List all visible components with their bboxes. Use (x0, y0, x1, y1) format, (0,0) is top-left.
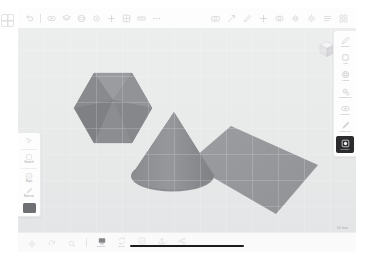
app-screen: 10 mm Smooth Maps Material (0, 0, 374, 258)
rail-item-transform[interactable]: Transform (334, 84, 356, 101)
mirror-icon[interactable] (291, 14, 300, 23)
rail-item-adjust[interactable]: Adjust (334, 67, 356, 84)
bottom-item-rotate[interactable] (44, 240, 59, 249)
dot-icon[interactable] (92, 14, 101, 23)
rail-label-6: Render (341, 149, 350, 152)
display-icon (98, 237, 106, 245)
right-tool-rail: Sketch Add Adjust Transform Visibility M (333, 30, 356, 157)
modeling-canvas[interactable]: 10 mm (18, 28, 356, 233)
scale-readout: 10 mm (337, 226, 348, 230)
bottom-item-sync[interactable]: Sync (114, 237, 129, 248)
icosahedron-object (74, 73, 152, 143)
square-outline-icon (25, 153, 33, 161)
left-palette-item-maps[interactable]: Maps (18, 170, 40, 186)
eye-icon (341, 104, 350, 113)
left-palette-label-1: Smooth (24, 162, 34, 165)
toolbar-divider (40, 14, 41, 23)
pencil-icon (341, 36, 350, 45)
layers-icon[interactable] (62, 14, 71, 23)
bottom-label-4: Sync (119, 246, 125, 249)
list-icon[interactable] (323, 14, 332, 23)
pencil-icon[interactable] (243, 14, 252, 23)
bottom-item-display[interactable]: Display (94, 237, 109, 248)
cone-object (131, 112, 214, 192)
bottom-divider (86, 238, 87, 247)
ellipsis-icon[interactable] (152, 14, 161, 23)
render-icon (341, 139, 350, 148)
rotate-icon (48, 240, 56, 248)
zoom-icon (68, 240, 76, 248)
rail-item-add[interactable]: Add (334, 50, 356, 67)
home-indicator[interactable] (130, 245, 244, 248)
rail-label-5: Materials (339, 131, 350, 134)
rail-item-render[interactable]: Render (336, 136, 354, 153)
bottom-item-zoom[interactable] (64, 240, 79, 249)
gears-icon (341, 87, 350, 96)
bottom-toolbar: Display Sync Finish Export Share (18, 232, 356, 252)
bottom-item-pan[interactable] (24, 240, 39, 249)
gear-icon[interactable] (307, 14, 316, 23)
rail-item-sketch[interactable]: Sketch (334, 33, 356, 50)
left-tool-palette: Smooth Maps Material (18, 132, 41, 217)
app-launcher-icon[interactable] (1, 14, 12, 25)
left-palette-label-3: Material (24, 196, 34, 199)
brush-icon (25, 187, 33, 195)
palette-divider-2 (21, 168, 37, 169)
pan-icon (28, 240, 36, 248)
plus-small-icon[interactable] (107, 14, 116, 23)
rail-label-3: Transform (339, 97, 351, 100)
left-palette-item-cursor[interactable] (18, 135, 40, 148)
move-icon[interactable] (227, 14, 236, 23)
rail-label-0: Sketch (341, 46, 349, 49)
plus-icon[interactable] (259, 14, 268, 23)
union-icon[interactable] (275, 14, 284, 23)
left-palette-item-material[interactable]: Material (18, 185, 40, 201)
top-toolbar (18, 8, 356, 29)
top-toolbar-right-group (211, 14, 356, 23)
rail-item-materials[interactable]: Materials (334, 118, 356, 135)
ruler-icon[interactable] (137, 14, 146, 23)
eye-icon[interactable] (47, 14, 56, 23)
left-palette-label-2: Maps (26, 181, 33, 184)
sphere-icon (341, 70, 350, 79)
grid-view-icon[interactable] (339, 14, 348, 23)
brush-icon (341, 121, 350, 130)
rail-label-2: Adjust (341, 80, 349, 83)
camera-icon[interactable] (211, 14, 220, 23)
rail-label-1: Add (343, 63, 348, 66)
undo-icon[interactable] (25, 14, 34, 23)
palette-divider (21, 149, 37, 150)
material-color-swatch[interactable] (23, 203, 36, 213)
cursor-icon (25, 137, 33, 145)
top-toolbar-left-group (18, 14, 161, 23)
frame-icon (25, 172, 33, 180)
bottom-label-3: Display (97, 246, 106, 249)
tablet-viewport: 10 mm Smooth Maps Material (18, 8, 356, 252)
sphere-icon[interactable] (77, 14, 86, 23)
sync-icon (118, 237, 126, 245)
plane-object (188, 126, 318, 214)
rail-label-4: Visibility (340, 114, 350, 117)
scene-objects (18, 28, 356, 233)
left-palette-item-smooth[interactable]: Smooth (18, 151, 40, 167)
rail-item-visibility[interactable]: Visibility (334, 101, 356, 118)
cube-icon (341, 53, 350, 62)
grid-icon[interactable] (122, 14, 131, 23)
